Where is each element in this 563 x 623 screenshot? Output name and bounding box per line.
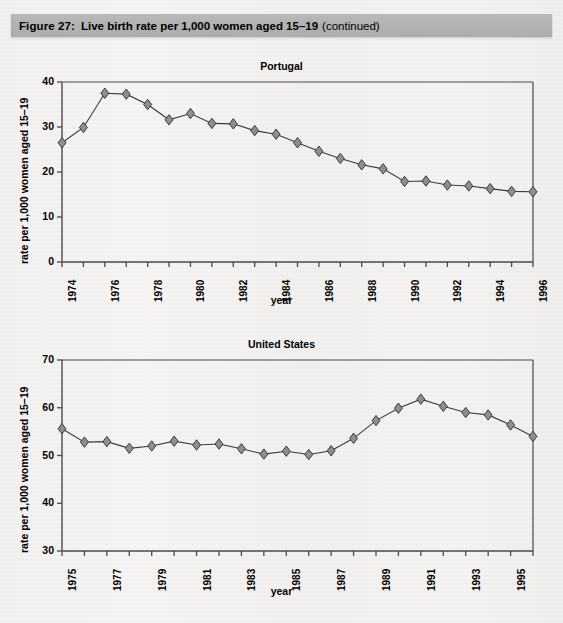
ytick-label: 0 <box>28 255 54 267</box>
xtick-label: 1974 <box>67 280 78 302</box>
xtick-label: 1976 <box>110 280 121 302</box>
ytick-label: 10 <box>28 210 54 222</box>
chart-united-states-plot <box>0 338 563 606</box>
xtick-label: 1992 <box>452 280 463 302</box>
xtick-label: 1990 <box>410 280 421 302</box>
figure-number: Figure 27: <box>19 20 75 32</box>
xtick-label: 1975 <box>67 569 78 591</box>
xtick-label: 1980 <box>195 280 206 302</box>
chart-united-states: United States year 304050607019751977197… <box>0 338 563 606</box>
xtick-label: 1984 <box>281 280 292 302</box>
xtick-label: 1989 <box>381 569 392 591</box>
ytick-label: 20 <box>28 165 54 177</box>
ytick-label: 50 <box>28 449 54 461</box>
xtick-label: 1996 <box>538 280 549 302</box>
xtick-label: 1979 <box>157 569 168 591</box>
xtick-label: 1981 <box>202 569 213 591</box>
xtick-label: 1994 <box>495 280 506 302</box>
chart-portugal-ylabel: rate per 1,000 women aged 15–19 <box>18 98 30 264</box>
xtick-label: 1983 <box>246 569 257 591</box>
xtick-label: 1993 <box>471 569 482 591</box>
ytick-label: 30 <box>28 120 54 132</box>
xtick-label: 1985 <box>291 569 302 591</box>
figure-continued-note: (continued) <box>322 20 380 32</box>
chart-united-states-ylabel: rate per 1,000 women aged 15–19 <box>18 387 30 553</box>
xtick-label: 1987 <box>336 569 347 591</box>
ytick-label: 30 <box>28 544 54 556</box>
figure-title: Live birth rate per 1,000 women aged 15–… <box>81 20 318 32</box>
ytick-label: 40 <box>28 496 54 508</box>
ytick-label: 60 <box>28 401 54 413</box>
xtick-label: 1991 <box>426 569 437 591</box>
ytick-label: 70 <box>28 353 54 365</box>
xtick-label: 1982 <box>238 280 249 302</box>
chart-portugal: Portugal year 01020304019741976197819801… <box>0 60 563 315</box>
figure-page: Figure 27: Live birth rate per 1,000 wom… <box>0 0 563 623</box>
xtick-label: 1986 <box>324 280 335 302</box>
xtick-label: 1978 <box>153 280 164 302</box>
figure-header-bar: Figure 27: Live birth rate per 1,000 wom… <box>11 14 552 37</box>
chart-portugal-plot <box>0 60 563 315</box>
xtick-label: 1977 <box>112 569 123 591</box>
ytick-label: 40 <box>28 75 54 87</box>
xtick-label: 1995 <box>516 569 527 591</box>
xtick-label: 1988 <box>367 280 378 302</box>
